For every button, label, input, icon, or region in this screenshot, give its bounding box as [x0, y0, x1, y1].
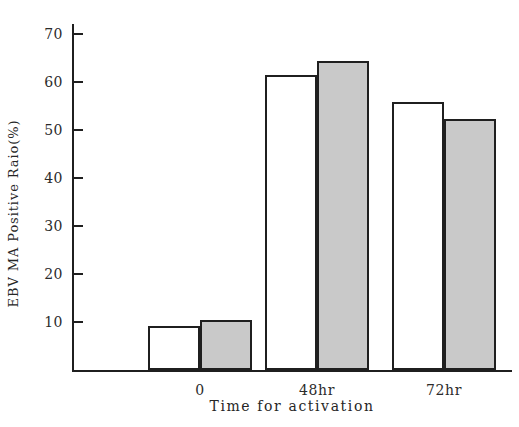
y-axis-tick-label: 30	[44, 219, 63, 233]
y-axis-tick-mark	[74, 177, 83, 179]
bar-chart-figure: EBV MA Positive Raio(%) 10203040506070 0…	[0, 0, 519, 427]
bar	[148, 326, 200, 370]
y-axis-tick-label: 40	[44, 171, 63, 185]
x-axis-tick-label: 48hr	[299, 382, 335, 398]
y-axis-title: EBV MA Positive Raio(%)	[0, 0, 26, 427]
bar	[392, 102, 444, 370]
y-axis-tick-label: 70	[44, 27, 63, 41]
y-axis-tick-label: 20	[44, 267, 63, 281]
y-axis-tick-mark	[74, 321, 83, 323]
x-axis-line	[72, 370, 512, 372]
y-axis-tick-mark	[74, 129, 83, 131]
plot-area: 10203040506070 048hr72hr	[72, 24, 512, 372]
y-axis-tick-label: 60	[44, 75, 63, 89]
y-axis-tick-mark	[74, 33, 83, 35]
y-axis-tick-mark	[74, 225, 83, 227]
x-axis-tick-label: 0	[195, 382, 205, 398]
y-axis-tick-mark	[74, 273, 83, 275]
y-axis-tick-mark	[74, 81, 83, 83]
y-axis-tick-label: 50	[44, 123, 63, 137]
x-axis-tick-label: 72hr	[426, 382, 462, 398]
y-axis-tick-label: 10	[44, 315, 63, 329]
bar	[444, 119, 496, 370]
bar	[265, 75, 317, 370]
bar	[317, 61, 369, 370]
bar	[200, 320, 252, 370]
x-axis-title: Time for activation	[72, 398, 512, 414]
y-axis-line	[72, 24, 74, 372]
